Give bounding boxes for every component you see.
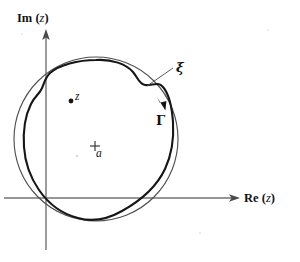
imaginary-axis-label: Im (z) — [17, 12, 49, 25]
gamma-direction-arrowhead — [157, 97, 167, 111]
gamma-curve-label: Γ — [156, 114, 165, 127]
point-z-dot — [69, 99, 74, 104]
figure-canvas — [0, 0, 300, 262]
real-axis-label: Re (z) — [244, 192, 275, 205]
point-z-label: z — [75, 91, 79, 103]
xi-curve-label: ξ — [176, 61, 184, 74]
point-a-label: a — [96, 148, 102, 160]
real-axis-label-prefix: Re — [244, 191, 259, 205]
complex-plane-figure: Im (z) Re (z) ξ Γ z a — [0, 0, 300, 262]
imaginary-axis-label-prefix: Im — [17, 11, 32, 25]
scan-artifacts — [21, 29, 268, 233]
xi-leader-line — [147, 68, 173, 86]
